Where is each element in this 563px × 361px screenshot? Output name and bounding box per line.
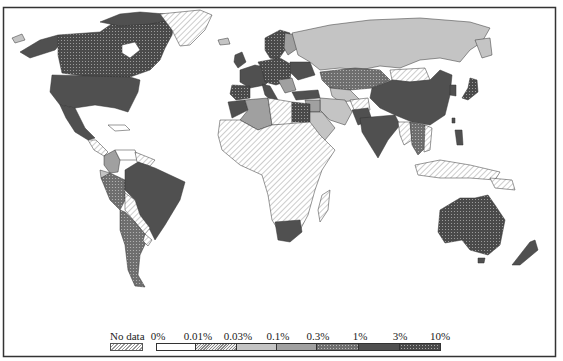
region-libya	[268, 98, 292, 125]
region-mongolia	[390, 68, 430, 82]
world-map	[0, 0, 563, 361]
region-tasmania	[478, 258, 485, 263]
region-turkey	[292, 90, 320, 100]
region-egypt	[292, 102, 310, 122]
region-taiwan	[452, 118, 455, 123]
region-korea	[450, 85, 456, 96]
